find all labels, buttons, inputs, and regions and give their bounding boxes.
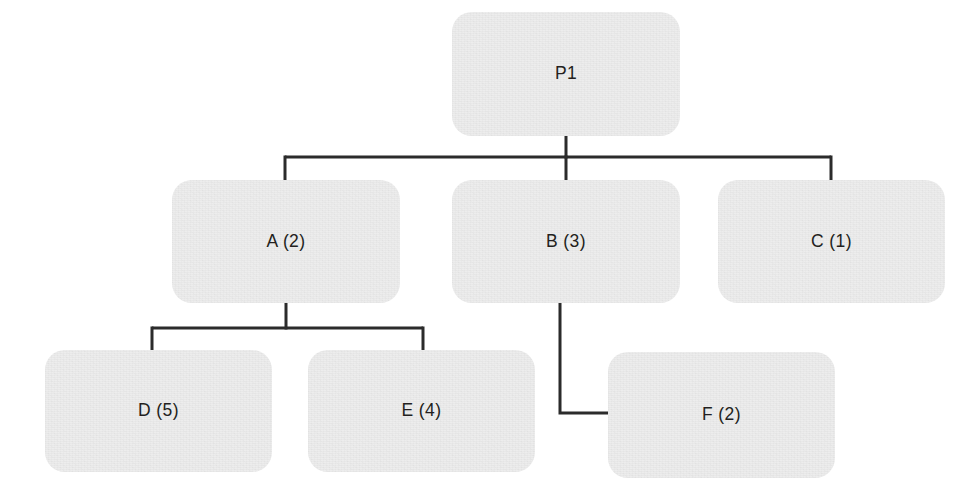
diagram-canvas: P1 A (2) B (3) C (1) D (5) E (4) F (2) [0,0,980,490]
node-e[interactable]: E (4) [308,350,535,472]
node-p1-label: P1 [555,65,577,83]
node-d[interactable]: D (5) [45,350,272,472]
node-b-label: B (3) [546,233,586,251]
node-b[interactable]: B (3) [452,180,680,303]
node-a[interactable]: A (2) [172,180,400,303]
node-p1[interactable]: P1 [452,12,680,136]
node-d-label: D (5) [138,402,179,420]
node-a-label: A (2) [267,233,306,251]
node-c[interactable]: C (1) [718,180,945,303]
node-f[interactable]: F (2) [608,352,835,478]
node-e-label: E (4) [402,402,442,420]
node-c-label: C (1) [811,233,852,251]
edge-b-to-f [560,303,610,413]
node-f-label: F (2) [702,406,741,424]
